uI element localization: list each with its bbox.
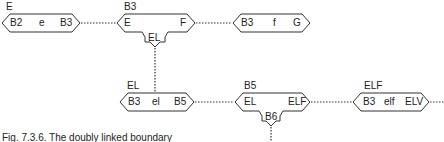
figure-caption: Fig. 7.3.6. The doubly linked boundary xyxy=(2,133,172,142)
node-6-left: B3 xyxy=(363,97,375,107)
node-5-right: ELF xyxy=(288,97,306,107)
node-6-top-label: ELF xyxy=(364,81,382,91)
node-6-mid: elf xyxy=(384,97,395,107)
node-2-tab-label: EL xyxy=(148,33,160,43)
node-5-tab-label: B6 xyxy=(265,112,277,122)
node-1-right: B3 xyxy=(60,18,72,28)
node-6-right: ELV xyxy=(405,97,423,107)
node-4-mid: el xyxy=(152,97,160,107)
node-4-top-label: EL xyxy=(127,81,139,91)
node-3-mid: f xyxy=(273,18,276,28)
node-4-left: B3 xyxy=(128,97,140,107)
node-5-top-label: B5 xyxy=(244,81,256,91)
node-2-right: F xyxy=(180,18,186,28)
node-2-left: E xyxy=(124,18,131,28)
node-3-left: B3 xyxy=(241,18,253,28)
node-1-top-label: E xyxy=(6,2,13,12)
node-5-left: EL xyxy=(244,97,256,107)
node-1-left: B2 xyxy=(10,18,22,28)
node-2-top-label: B3 xyxy=(124,2,136,12)
node-4-right: B5 xyxy=(174,97,186,107)
node-1-mid: e xyxy=(39,18,45,28)
node-3-right: G xyxy=(293,18,301,28)
